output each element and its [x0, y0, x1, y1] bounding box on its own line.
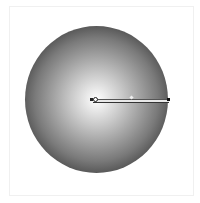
- gradient-end-handle[interactable]: [167, 98, 170, 101]
- gradient-origin-stop-icon[interactable]: [93, 97, 98, 102]
